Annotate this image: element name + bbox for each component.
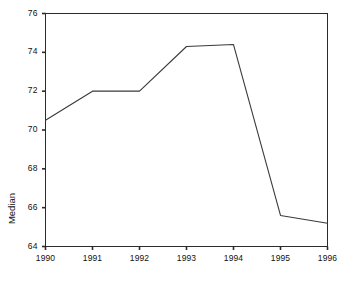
y-axis-tick-label: 72	[12, 86, 38, 95]
x-axis-tick-label: 1996	[308, 254, 346, 263]
x-axis-tick-label: 1994	[214, 254, 254, 263]
y-axis-tick-label: 68	[12, 164, 38, 173]
line-chart: 64666870727476 1990199119921993199419951…	[0, 0, 346, 284]
y-axis-tick-label: 74	[12, 47, 38, 56]
x-axis-tick-label: 1995	[261, 254, 301, 263]
x-axis-ticks	[46, 247, 328, 251]
y-axis-title: Median	[6, 179, 17, 239]
x-axis-tick-label: 1990	[26, 254, 66, 263]
y-axis-tick-label: 76	[12, 9, 38, 18]
x-axis-tick-label: 1993	[167, 254, 207, 263]
y-axis-tick-label: 64	[12, 242, 38, 251]
y-axis-tick-label: 70	[12, 125, 38, 134]
x-axis-tick-label: 1991	[73, 254, 113, 263]
x-axis-tick-label: 1992	[120, 254, 160, 263]
y-axis-ticks	[42, 14, 46, 247]
plot-area	[0, 0, 346, 284]
axes-frame	[46, 14, 328, 247]
